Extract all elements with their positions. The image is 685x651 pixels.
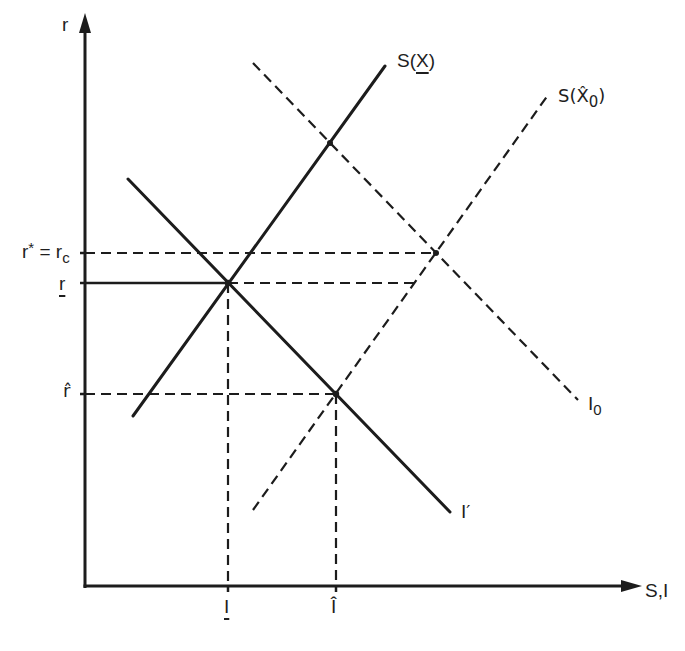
investment-curve-0: [253, 63, 578, 400]
investment-curve-prime-label: I′: [461, 503, 470, 521]
label-subscript: 0: [593, 401, 601, 418]
label-prefix: S(: [558, 85, 576, 106]
saving-curve-x: [133, 66, 385, 416]
i-hat-label: Î: [331, 597, 336, 616]
label-prefix: S(: [397, 50, 416, 71]
label-suffix: ): [429, 50, 435, 71]
i-under-label: I: [224, 597, 229, 616]
y-axis-label: r: [62, 15, 68, 34]
saving-curve-x0-hat: [253, 95, 548, 510]
y-axis-arrowhead: [79, 13, 91, 33]
equilibrium-point-star: [433, 250, 439, 256]
r-hat-label: r̂: [63, 382, 70, 400]
intersection-point-sx-i0: [327, 140, 333, 146]
equilibrium-point-under: [225, 280, 231, 286]
r-star-label: r* = rc: [22, 242, 70, 261]
saving-curve-x0-hat-label: S(X̂0): [558, 87, 605, 105]
label-subscript: c: [62, 249, 70, 266]
x-axis-label: S,I: [645, 581, 668, 600]
x-axis-arrowhead: [621, 580, 642, 592]
label-var: X: [416, 50, 429, 71]
label-var: X̂: [576, 85, 588, 106]
label-subscript: 0: [589, 93, 599, 111]
saving-curve-x-label: S(X): [397, 51, 435, 70]
investment-curve-0-label: I0: [588, 394, 602, 413]
equilibrium-point-hat: [333, 391, 339, 397]
label-equals: = r: [34, 241, 62, 262]
diagram-canvas: r S,I S(X) S(X̂0) I0 I′ r* = rc r r̂ I Î: [0, 0, 685, 651]
investment-curve-prime: [128, 179, 450, 512]
r-under-label: r: [59, 274, 65, 293]
label-superscript: *: [28, 239, 34, 256]
label-suffix: ): [598, 85, 605, 106]
